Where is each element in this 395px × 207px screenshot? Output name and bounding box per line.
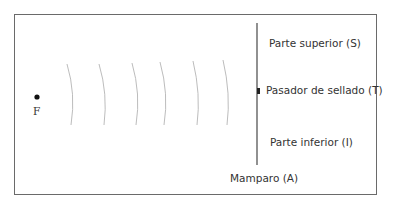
sealing-pin	[257, 88, 260, 94]
wavefront-3	[132, 63, 138, 125]
wavefront-5	[193, 61, 198, 125]
sealing-pin-label: Pasador de sellado (T)	[266, 84, 383, 96]
bottom-part-label: Parte inferior (I)	[270, 136, 353, 148]
diagram-graphics	[0, 0, 395, 207]
top-part-label: Parte superior (S)	[269, 37, 361, 49]
wavefront-2	[99, 64, 105, 125]
wavefronts	[67, 60, 228, 125]
source-point	[34, 94, 39, 99]
wavefront-1	[67, 64, 73, 125]
wavefront-6	[223, 60, 228, 125]
bulkhead-label: Mamparo (A)	[230, 172, 298, 184]
wavefront-4	[160, 62, 166, 125]
source-label: F	[33, 105, 40, 117]
